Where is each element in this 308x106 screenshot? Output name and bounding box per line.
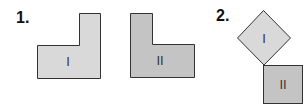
figure-1-shape-i: I bbox=[38, 14, 101, 79]
figure-2-shape-i: I bbox=[238, 11, 291, 66]
figure-1-shape-ii: II bbox=[131, 14, 195, 78]
shape-label: II bbox=[279, 77, 286, 92]
shape-label: II bbox=[156, 53, 163, 68]
shape-label: I bbox=[262, 31, 266, 46]
diagram-canvas: I II I II bbox=[0, 0, 308, 106]
shape-label: I bbox=[66, 54, 70, 69]
figure-2-shape-ii: II bbox=[264, 66, 303, 104]
